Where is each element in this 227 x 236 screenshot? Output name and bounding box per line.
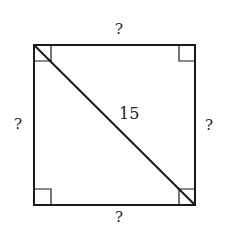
label-diagonal: 15 [119, 106, 139, 122]
label-bottom: ? [115, 210, 123, 225]
right-angle-marker-bottom-left [34, 189, 51, 205]
label-left: ? [14, 117, 22, 132]
right-angle-marker-top-right [179, 45, 195, 61]
label-top: ? [115, 22, 123, 37]
diagonal-line [34, 45, 195, 205]
label-right: ? [205, 118, 213, 133]
square-diagram [0, 0, 227, 236]
